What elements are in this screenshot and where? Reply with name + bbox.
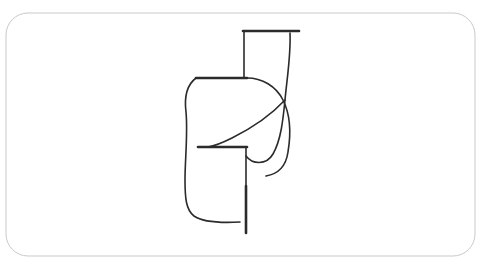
drawing-surface-svg [0, 0, 481, 268]
rounded-rectangle-border [6, 13, 475, 256]
sketch-app-root: Sketch Canvas Freehand line drawing: thr… [0, 0, 481, 268]
drawing-canvas[interactable] [0, 0, 481, 268]
